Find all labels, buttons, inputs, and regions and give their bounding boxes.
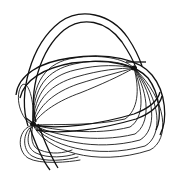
basket-illustration bbox=[0, 0, 183, 188]
basket-drawing bbox=[0, 0, 183, 188]
right-hub bbox=[131, 66, 137, 71]
basket-ribs bbox=[33, 56, 163, 157]
basket-rim bbox=[16, 56, 165, 135]
